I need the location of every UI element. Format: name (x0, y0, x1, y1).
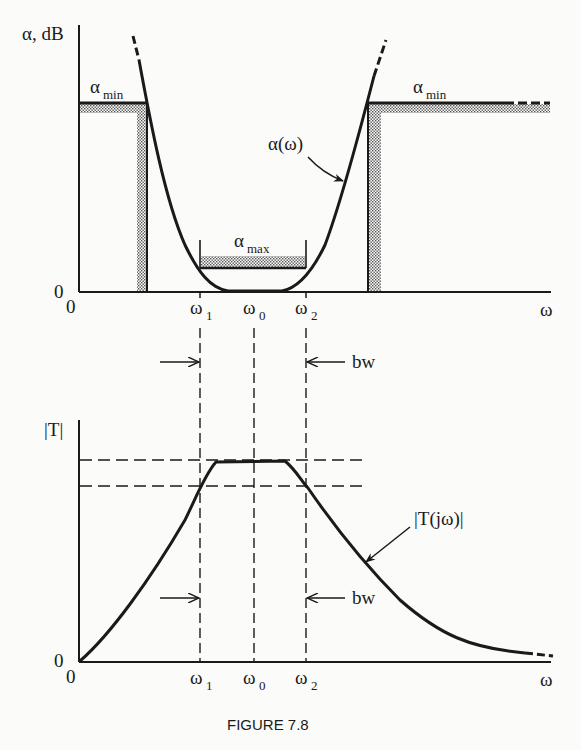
frequency-guides (200, 328, 306, 662)
top-tick-label-w2: ω2 (295, 297, 318, 323)
left-stopband-stipple-h (80, 104, 146, 113)
svg-text:α: α (90, 76, 100, 97)
top-y-axis-label: α, dB (22, 23, 64, 44)
attenuation-curve-dashed-right (374, 40, 386, 76)
svg-text:2: 2 (311, 308, 318, 323)
bottom-origin-y-label: 0 (54, 650, 64, 671)
top-tick-label-w0: ω0 (243, 297, 266, 323)
svg-text:max: max (247, 241, 270, 256)
bottom-y-axis-label: |T| (44, 419, 63, 440)
right-stopband-stipple-h (369, 104, 550, 113)
svg-text:1: 1 (206, 308, 213, 323)
bottom-tick-label-w2: ω2 (295, 667, 318, 693)
right-stopband-stipple-v (369, 104, 381, 292)
upper-bandwidth-marker: bw (160, 351, 376, 372)
alpha-min-left-label: α min (90, 76, 124, 102)
svg-text:min: min (103, 87, 124, 102)
bw-label-upper: bw (352, 351, 376, 372)
svg-text:ω: ω (295, 667, 308, 688)
top-origin-x-label: 0 (66, 296, 76, 317)
bottom-tick-label-w1: ω1 (190, 667, 213, 693)
bottom-tick-labels: ω1 ω0 ω2 (190, 667, 318, 693)
alpha-max-label: α max (234, 230, 270, 256)
svg-text:ω: ω (190, 297, 203, 318)
bw-label-lower: bw (352, 587, 376, 608)
figure-caption: FIGURE 7.8 (227, 716, 309, 733)
svg-text:1: 1 (206, 678, 213, 693)
alpha-omega-arrow (308, 157, 343, 181)
svg-text:min: min (426, 87, 447, 102)
top-x-axis-label: ω (540, 299, 553, 320)
top-origin-y-label: 0 (54, 281, 64, 302)
bottom-tick-label-w0: ω0 (243, 667, 266, 693)
svg-text:ω: ω (243, 667, 256, 688)
attenuation-plot: α, dB 0 0 ω α min α min α max α(ω) ω1 ω0… (22, 23, 553, 323)
top-tick-labels: ω1 ω0 ω2 (190, 297, 318, 323)
t-jw-curve-label: |T(jω)| (414, 508, 464, 530)
svg-text:ω: ω (190, 667, 203, 688)
bottom-x-axis-label: ω (540, 669, 553, 690)
alpha-min-right-label: α min (413, 76, 447, 102)
svg-text:ω: ω (295, 297, 308, 318)
svg-text:α: α (413, 76, 423, 97)
magnitude-curve-dashed-tail (525, 653, 553, 656)
alpha-omega-curve-label: α(ω) (268, 133, 303, 155)
figure-canvas: α, dB 0 0 ω α min α min α max α(ω) ω1 ω0… (0, 0, 581, 750)
t-jw-arrow (366, 527, 410, 562)
svg-text:2: 2 (311, 678, 318, 693)
svg-text:0: 0 (259, 308, 266, 323)
svg-text:ω: ω (243, 297, 256, 318)
bottom-origin-x-label: 0 (66, 666, 76, 687)
passband-stipple (201, 256, 305, 268)
svg-text:0: 0 (259, 678, 266, 693)
left-stopband-stipple-v (137, 104, 146, 292)
svg-text:α: α (234, 230, 244, 251)
magnitude-curve (80, 461, 525, 661)
top-tick-label-w1: ω1 (190, 297, 213, 323)
attenuation-curve-dashed-left (133, 36, 139, 60)
magnitude-plot: bw |T| 0 0 ω |T(jω)| ω1 ω0 ω2 (44, 419, 553, 693)
